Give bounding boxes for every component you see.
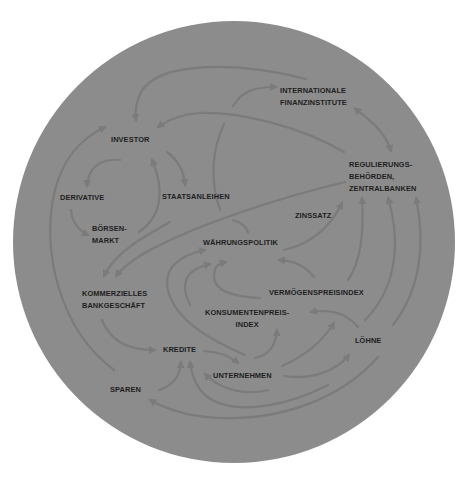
node-derivative: DERIVATIVE xyxy=(60,192,104,204)
node-boersenmarkt: BÖRSEN- MARKT xyxy=(92,223,127,247)
economic-cycle-diagram: INTERNATIONALE FINANZINSTITUTE INVESTOR … xyxy=(0,0,467,477)
node-vermoegenspreisindex: VERMÖGENSPREISINDEX xyxy=(269,287,364,299)
node-sparen: SPAREN xyxy=(110,384,141,396)
node-regulierungsbehoerden: REGULIERUNGS- BEHÖRDEN, ZENTRALBANKEN xyxy=(349,159,416,195)
node-internationale-finanzinstitute: INTERNATIONALE FINANZINSTITUTE xyxy=(280,85,347,109)
node-staatsanleihen: STAATSANLEIHEN xyxy=(162,191,230,203)
node-investor: INVESTOR xyxy=(111,134,149,146)
node-kredite: KREDITE xyxy=(163,344,196,356)
node-unternehmen: UNTERNEHMEN xyxy=(213,370,272,382)
node-zinssatz: ZINSSATZ xyxy=(295,210,331,222)
node-loehne: LÖHNE xyxy=(355,335,381,347)
node-kommerzielles-bankgeschaeft: KOMMERZIELLES BANKGESCHÄFT xyxy=(82,288,147,312)
node-waehrungspolitik: WÄHRUNGSPOLITIK xyxy=(203,237,278,249)
node-konsumentenpreisindex: KONSUMENTENPREIS- INDEX xyxy=(205,307,289,331)
